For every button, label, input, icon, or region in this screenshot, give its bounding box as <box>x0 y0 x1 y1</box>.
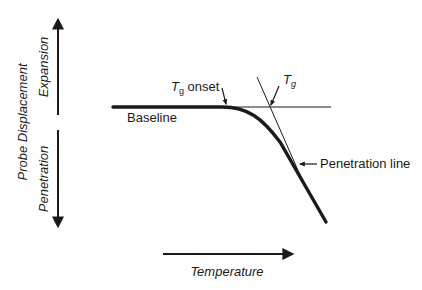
tg-label: Tg <box>283 72 296 89</box>
x-axis-title: Temperature <box>190 264 263 279</box>
tangent-line <box>257 77 300 175</box>
y-axis-title: Probe Displacement <box>15 62 30 180</box>
tg-onset-arrow <box>222 88 226 104</box>
tma-diagram: Probe Displacement Expansion Penetration… <box>0 0 422 290</box>
penetration-label: Penetration <box>36 146 51 213</box>
baseline-label: Baseline <box>127 110 177 125</box>
penetration-line-label: Penetration line <box>320 156 410 171</box>
tg-arrow <box>271 86 279 105</box>
expansion-label: Expansion <box>36 37 51 98</box>
tg-onset-label: Tg onset <box>171 79 220 96</box>
